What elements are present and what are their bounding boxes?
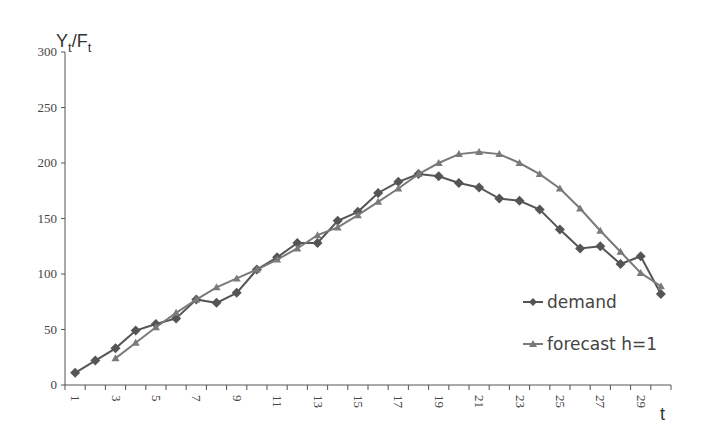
x-tick-label: 1 xyxy=(68,395,83,402)
x-tick-label: 7 xyxy=(189,395,204,402)
x-axis: 1357911131517192123252729 xyxy=(65,385,671,409)
y-tick-label: 100 xyxy=(38,266,58,281)
legend: demand forecast h=1 xyxy=(523,292,657,354)
diamond-marker-icon xyxy=(636,251,646,261)
y-tick-label: 50 xyxy=(44,322,57,337)
x-tick-label: 27 xyxy=(593,395,608,409)
y-tick-label: 0 xyxy=(51,377,58,392)
diamond-marker-icon xyxy=(656,289,666,299)
diamond-marker-icon xyxy=(529,298,537,306)
x-tick-label: 3 xyxy=(109,395,124,402)
x-tick-label: 13 xyxy=(311,395,326,408)
diamond-marker-icon xyxy=(454,178,464,188)
diamond-marker-icon xyxy=(515,196,525,206)
x-tick-label: 9 xyxy=(230,395,245,402)
line-chart: 050100150200250300 135791113151719212325… xyxy=(0,0,710,437)
x-tick-label: 25 xyxy=(553,395,568,408)
diamond-marker-icon xyxy=(434,171,444,181)
legend-item-demand: demand xyxy=(523,292,617,312)
y-axis-title: Yt/Ft xyxy=(56,31,92,55)
y-tick-label: 250 xyxy=(38,100,58,115)
series-forecast xyxy=(112,148,665,361)
diamond-marker-icon xyxy=(212,298,222,308)
y-tick-label: 300 xyxy=(38,44,58,59)
x-tick-label: 29 xyxy=(634,395,649,408)
y-tick-label: 150 xyxy=(38,211,58,226)
diamond-marker-icon xyxy=(474,182,484,192)
x-tick-label: 17 xyxy=(391,395,406,409)
x-tick-label: 19 xyxy=(432,395,447,408)
legend-label-demand: demand xyxy=(547,292,617,312)
x-axis-title: t xyxy=(660,404,665,424)
x-tick-label: 23 xyxy=(513,395,528,408)
y-tick-label: 200 xyxy=(38,155,58,170)
legend-label-forecast: forecast h=1 xyxy=(547,334,657,354)
x-tick-label: 11 xyxy=(270,395,285,408)
diamond-marker-icon xyxy=(494,194,504,204)
x-tick-label: 15 xyxy=(351,395,366,408)
diamond-marker-icon xyxy=(90,356,100,366)
legend-item-forecast: forecast h=1 xyxy=(523,334,657,354)
x-tick-label: 21 xyxy=(472,395,487,408)
y-axis: 050100150200250300 xyxy=(38,44,66,392)
diamond-marker-icon xyxy=(70,368,80,378)
x-tick-label: 5 xyxy=(149,395,164,402)
